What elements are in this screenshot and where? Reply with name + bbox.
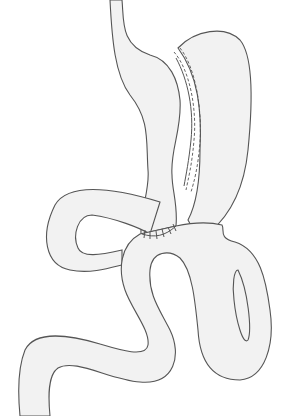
remnant-stomach <box>178 31 251 234</box>
gastric-bypass-diagram <box>0 0 302 416</box>
